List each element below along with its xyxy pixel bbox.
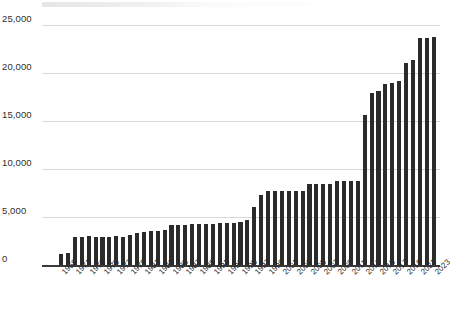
bar: [363, 115, 367, 265]
bar: [397, 81, 401, 265]
bar: [390, 83, 394, 265]
bar: [335, 181, 339, 265]
bar-chart: 05,00010,00015,00020,00025,000 196919711…: [0, 0, 458, 316]
bar: [356, 181, 360, 265]
y-tick-label: 10,000: [2, 157, 40, 168]
bar: [280, 191, 284, 265]
bar: [411, 60, 415, 265]
bar: [245, 220, 249, 265]
bar: [266, 191, 270, 265]
bar: [232, 223, 236, 265]
bar: [342, 181, 346, 265]
gridline: [42, 25, 440, 26]
y-tick-label: 0: [2, 253, 40, 264]
bar: [383, 84, 387, 265]
bar: [404, 63, 408, 265]
y-tick-label: 15,000: [2, 109, 40, 120]
bar: [432, 37, 436, 265]
bar: [273, 191, 277, 265]
bar: [307, 184, 311, 265]
bar: [294, 191, 298, 265]
bar: [328, 184, 332, 265]
bar: [287, 191, 291, 265]
bar: [301, 191, 305, 265]
bar: [370, 93, 374, 265]
bar: [218, 223, 222, 265]
bar: [349, 181, 353, 265]
bar: [252, 207, 256, 265]
y-tick-label: 5,000: [2, 205, 40, 216]
bar: [259, 195, 263, 265]
bar: [376, 91, 380, 265]
bar: [418, 38, 422, 265]
bar: [425, 38, 429, 265]
y-tick-label: 25,000: [2, 13, 40, 24]
plot-area: 05,00010,00015,00020,00025,000 196919711…: [0, 0, 458, 316]
bar: [176, 225, 180, 265]
y-tick-label: 20,000: [2, 61, 40, 72]
gridline: [42, 73, 440, 74]
bar: [314, 184, 318, 265]
bar: [59, 254, 63, 265]
bar: [321, 184, 325, 265]
